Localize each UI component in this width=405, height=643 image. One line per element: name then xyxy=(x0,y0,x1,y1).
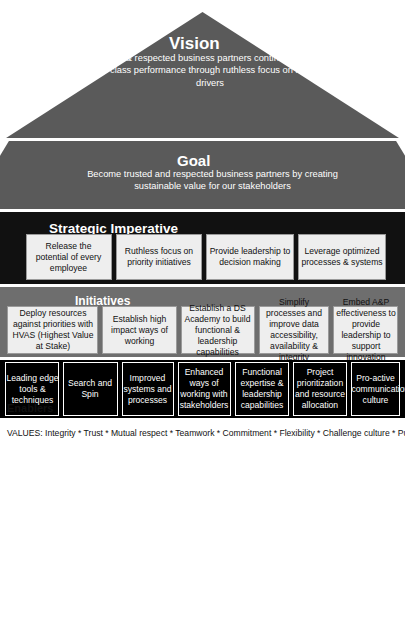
card-label: Simplify processes and improve data acce… xyxy=(259,297,329,363)
initiatives-card[interactable]: Embed A&P effectiveness to provide leade… xyxy=(333,306,398,354)
initiatives-card[interactable]: Establish high impact ways of working xyxy=(102,306,176,354)
card-label: Leverage optimized processes & systems xyxy=(301,246,383,268)
enablers-card[interactable]: Project prioritization and resource allo… xyxy=(293,362,347,416)
strategic-imperative-card[interactable]: Provide leadership to decision making xyxy=(206,234,294,280)
goal-title: Goal xyxy=(177,152,210,169)
values-strip: VALUES: Integrity * Trust * Mutual respe… xyxy=(7,428,405,438)
card-label: Establish high impact ways of working xyxy=(103,314,175,347)
strategy-pyramid-canvas: Vision Trusted & respected business part… xyxy=(0,0,405,643)
enablers-card[interactable]: Pro-active communication culture xyxy=(351,362,400,416)
card-label: Leading edge tools & techniques xyxy=(5,373,59,406)
initiatives-card[interactable]: Establish a DS Academy to build function… xyxy=(181,306,255,354)
strategic-imperative-cards: Release the potential of every employee … xyxy=(0,234,405,280)
card-label: Provide leadership to decision making xyxy=(209,246,291,268)
card-label: Project prioritization and resource allo… xyxy=(293,367,347,411)
card-label: Enhanced ways of working with stakeholde… xyxy=(178,367,230,411)
enablers-card[interactable]: Improved systems and processes xyxy=(122,362,174,416)
strategic-imperative-card[interactable]: Ruthless focus on priority initiatives xyxy=(116,234,202,280)
strategic-imperative-card[interactable]: Release the potential of every employee xyxy=(26,234,112,280)
enablers-card[interactable]: Search and Spin xyxy=(63,362,117,416)
card-label: Pro-active communication culture xyxy=(352,373,400,406)
card-label: Ruthless focus on priority initiatives xyxy=(119,246,199,268)
initiatives-cards: Deploy resources against priorities with… xyxy=(0,306,405,354)
enablers-caption: Enablers xyxy=(7,402,53,414)
card-label: Search and Spin xyxy=(64,378,118,400)
card-label: Embed A&P effectiveness to provide leade… xyxy=(334,297,398,363)
card-label: Establish a DS Academy to build function… xyxy=(181,303,255,358)
pyramid-stage: Vision Trusted & respected business part… xyxy=(0,0,405,643)
enablers-card[interactable]: Functional expertise & leadership capabi… xyxy=(235,362,289,416)
card-label: Deploy resources against priorities with… xyxy=(8,308,98,352)
strategic-imperative-card[interactable]: Leverage optimized processes & systems xyxy=(298,234,386,280)
card-label: Functional expertise & leadership capabi… xyxy=(235,367,289,411)
card-label: Release the potential of every employee xyxy=(29,241,109,274)
goal-body: Become trusted and respected business pa… xyxy=(75,168,350,193)
initiatives-card[interactable]: Simplify processes and improve data acce… xyxy=(259,306,329,354)
enablers-card[interactable]: Enhanced ways of working with stakeholde… xyxy=(178,362,230,416)
enablers-cards: Leading edge tools & techniques Search a… xyxy=(0,362,405,416)
card-label: Improved systems and processes xyxy=(122,373,174,406)
vision-body: Trusted & respected business partners co… xyxy=(85,52,335,89)
initiatives-card[interactable]: Deploy resources against priorities with… xyxy=(7,306,98,354)
vision-title: Vision xyxy=(169,34,220,54)
